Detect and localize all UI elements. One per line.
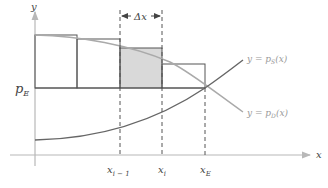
shaded-rectangle <box>120 48 162 88</box>
consumer-surplus-diagram: y x Δx pE xi − 1 xi xE y = pS(x) y = pD(… <box>0 0 328 188</box>
tick-label-xE: xE <box>200 164 211 178</box>
rectangle-4 <box>162 64 205 88</box>
demand-curve-label: y = pD(x) <box>246 108 289 119</box>
x-axis-label: x <box>316 149 322 160</box>
tick-label-xi: xi <box>158 164 166 178</box>
supply-curve-label: y = pS(x) <box>246 54 288 65</box>
price-label: pE <box>15 81 29 98</box>
tick-label-xi-minus-1: xi − 1 <box>107 164 130 178</box>
delta-x-label: Δx <box>133 11 147 22</box>
rectangle-2 <box>77 39 120 88</box>
rectangle-1 <box>35 35 77 88</box>
y-axis-label: y <box>30 1 37 12</box>
